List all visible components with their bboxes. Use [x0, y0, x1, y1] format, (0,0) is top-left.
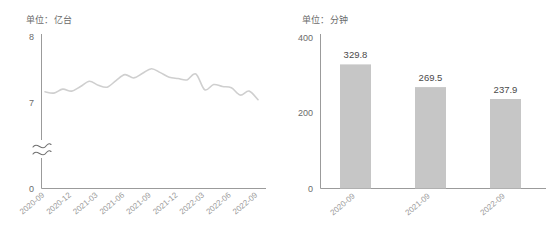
line-chart-panel: 单位：亿台 8 7 0 2020-092020-122021-032021-06…: [0, 0, 280, 243]
bar-chart-y-tick-0: 0: [308, 184, 313, 194]
line-chart-series-path: [45, 69, 258, 100]
bar-chart-value-label: 269.5: [419, 72, 443, 83]
line-chart-tick-label: 2022-03: [178, 190, 207, 216]
bar-chart-bar[interactable]: [340, 64, 371, 188]
line-chart-tick-label: 2021-09: [125, 190, 154, 216]
bar-chart-panel: 单位：分钟 400 200 0 329.8269.5237.9 2020-092…: [280, 0, 560, 243]
line-chart-y-tick-8: 8: [29, 32, 34, 42]
bar-chart-value-label: 329.8: [344, 49, 368, 60]
line-chart-tick-label: 2022-09: [231, 190, 260, 216]
axis-break-wave-icon: [33, 144, 51, 155]
line-chart-tick-label: 2021-12: [151, 190, 180, 216]
bar-chart-bar[interactable]: [415, 87, 446, 188]
bar-chart-svg: 400 200 0 329.8269.5237.9 2020-092021-09…: [280, 0, 560, 243]
bar-chart-y-tick-200: 200: [298, 108, 313, 118]
line-chart-tick-label: 2021-06: [98, 190, 127, 216]
bar-chart-value-label: 237.9: [494, 84, 518, 95]
line-chart-tick-label: 2020-12: [45, 190, 74, 216]
bar-chart-tick-label: 2020-09: [329, 191, 358, 217]
line-chart-y-tick-7: 7: [29, 98, 34, 108]
line-chart-tick-label: 2021-03: [71, 190, 100, 216]
bar-chart-tick-label: 2021-09: [404, 191, 433, 217]
bar-chart-tick-label: 2022-09: [479, 191, 508, 217]
line-chart-svg: 8 7 0 2020-092020-122021-032021-062021-0…: [0, 0, 280, 243]
bar-chart-bar[interactable]: [490, 99, 521, 189]
line-chart-y-tick-0: 0: [29, 184, 34, 194]
screenshot-root: 单位：亿台 8 7 0 2020-092020-122021-032021-06…: [0, 0, 560, 243]
line-chart-tick-label: 2020-09: [18, 190, 47, 216]
line-chart-category-labels: 2020-092020-122021-032021-062021-092021-…: [18, 190, 260, 216]
bar-chart-y-tick-400: 400: [298, 33, 313, 43]
bar-chart-category-labels: 2020-092021-092022-09: [329, 191, 508, 217]
line-chart-tick-label: 2022-06: [204, 190, 233, 216]
